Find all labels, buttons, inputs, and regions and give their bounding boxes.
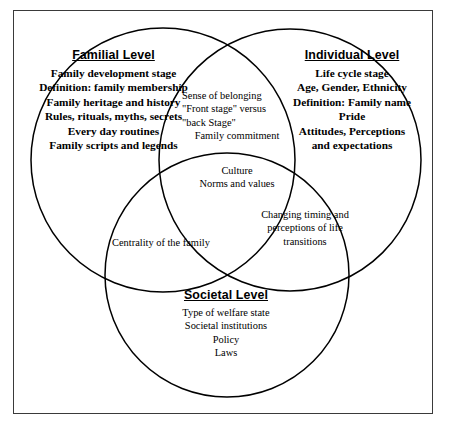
fi-overlap-item-1: Sense of belonging [182,89,292,102]
societal-level-heading: Societal Level [150,288,302,304]
is-overlap-item-3: transitions [243,235,367,248]
center-overlap-item-1: Culture [172,164,302,177]
individual-item-6: and expectations [268,138,436,152]
individual-item-4: Pride [268,109,436,123]
center-overlap-item-2: Norms and values [172,177,302,190]
societal-item-1: Type of welfare state [150,306,302,319]
is-overlap-item-1: Changing timing and [243,208,367,221]
is-overlap-item-2: perceptions of life [243,221,367,234]
individual-level-text-block: Individual Level Life cycle stage Age, G… [268,48,436,153]
individual-societal-overlap-text: Changing timing and perceptions of life … [243,208,367,248]
individual-item-3: Definition: Family name [268,95,436,109]
individual-item-2: Age, Gender, Ethnicity [268,80,436,94]
familial-societal-overlap-text: Centrality of the family [96,236,226,249]
fs-overlap-item-1: Centrality of the family [96,236,226,249]
fi-overlap-item-2: "Front stage" versus [182,102,292,115]
fi-overlap-item-3: "back Stage" [182,116,292,129]
center-overlap-text: Culture Norms and values [172,164,302,191]
venn-diagram-canvas: Familial Level Family development stage … [0,0,450,426]
individual-item-5: Attitudes, Perceptions [268,124,436,138]
societal-item-3: Policy [150,333,302,346]
fi-overlap-item-4: Family commitment [182,129,292,142]
societal-item-4: Laws [150,346,302,359]
familial-item-1: Family development stage [16,66,211,80]
societal-item-2: Societal institutions [150,319,302,332]
familial-individual-overlap-text: Sense of belonging "Front stage" versus … [182,89,292,142]
familial-level-heading: Familial Level [16,48,211,64]
individual-level-heading: Individual Level [268,48,436,64]
individual-item-1: Life cycle stage [268,66,436,80]
societal-level-text-block: Societal Level Type of welfare state Soc… [150,288,302,359]
